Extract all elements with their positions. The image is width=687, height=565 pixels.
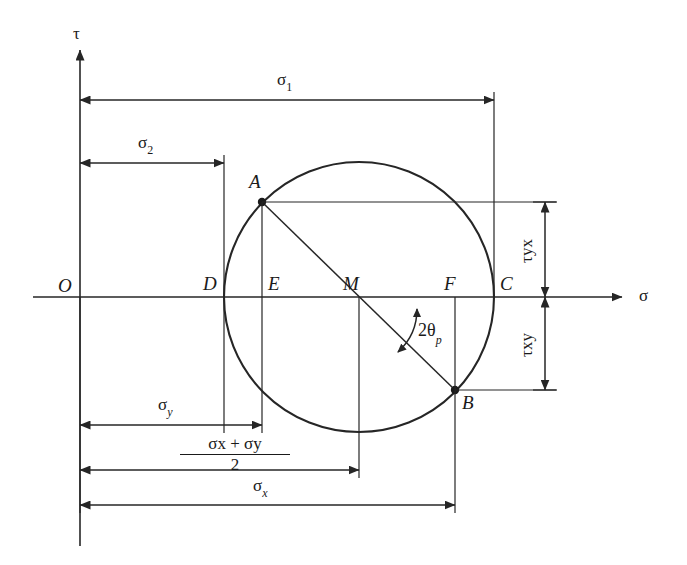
dimension-label-tau-xy: τxy: [517, 323, 537, 367]
sigma-1-subscript: 1: [286, 80, 292, 94]
tau-xy-subscript: xy: [517, 333, 536, 350]
angle-label-2theta-p: 2θp: [418, 320, 442, 345]
sigma-2-subscript: 2: [147, 143, 153, 157]
dimension-label-sigma-2: σ2: [138, 134, 153, 154]
tau-xy-glyph: τ: [517, 350, 536, 357]
axes-group: [33, 50, 622, 546]
sigma-y-subscript-num: y: [253, 434, 262, 453]
point-label-m: M: [343, 274, 359, 293]
point-label-c: C: [500, 274, 513, 293]
sigma-x-subscript: x: [262, 486, 267, 500]
plus-sign: +: [226, 434, 244, 453]
dimension-label-sigma-1: σ1: [277, 71, 292, 91]
dimension-label-sigma-x: σx: [253, 477, 268, 497]
sigma-x-glyph: σ: [253, 476, 262, 495]
angle-arc-2theta-p: [398, 309, 417, 352]
angle-subscript: p: [436, 333, 442, 347]
point-label-d: D: [203, 274, 217, 293]
origin-label: O: [58, 276, 72, 295]
point-label-f: F: [444, 274, 456, 293]
mohr-circle-figure: τ σ O A B C D E F M σ1 σ2 σy σx + σy 2 σ…: [0, 0, 687, 565]
sigma-y-subscript: y: [167, 405, 172, 419]
point-label-a: A: [249, 172, 261, 191]
tau-yx-subscript: yx: [517, 239, 536, 256]
sigma-y-glyph: σ: [158, 395, 167, 414]
dimension-label-sigma-y: σy: [158, 396, 173, 416]
sigma-average-numerator: σx + σy: [180, 435, 290, 455]
sigma-axis-label: σ: [639, 287, 648, 304]
sigma-average-denominator: 2: [180, 455, 290, 474]
dimension-label-sigma-average: σx + σy 2: [180, 435, 290, 474]
sigma-1-glyph: σ: [277, 70, 286, 89]
tau-yx-glyph: τ: [517, 256, 536, 263]
angle-main-glyph: 2θ: [418, 320, 436, 340]
dimension-lines-group: [80, 100, 557, 505]
point-label-e: E: [268, 274, 280, 293]
point-label-b: B: [462, 393, 474, 412]
tau-axis-label: τ: [73, 25, 80, 42]
sigma-x-subscript-num: x: [217, 434, 226, 453]
dimension-label-tau-yx: τyx: [517, 229, 537, 273]
sigma-2-glyph: σ: [138, 133, 147, 152]
sigma-y-glyph-num: σ: [244, 434, 253, 453]
